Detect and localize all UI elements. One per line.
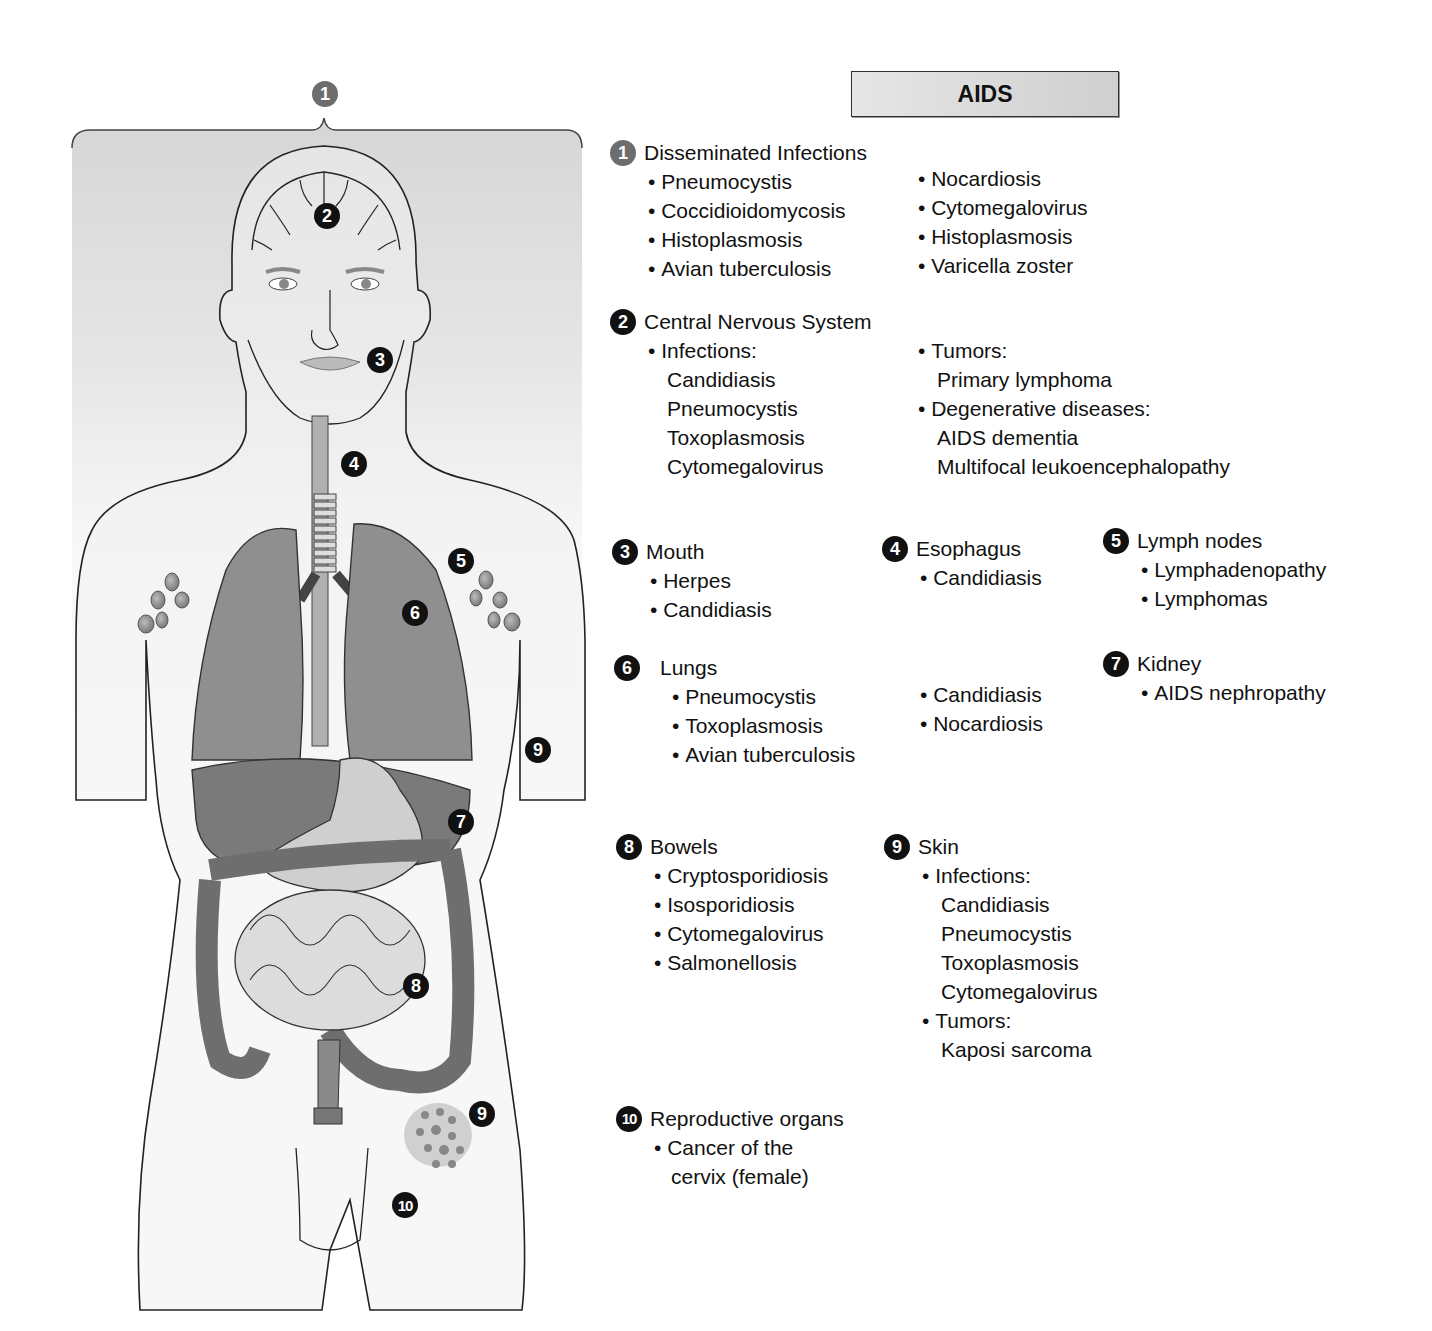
section-disseminated-infections: 1Disseminated Infections Pneumocystis Co… <box>610 138 867 167</box>
figure-marker-10: 10 <box>392 1192 418 1218</box>
list-item: Salmonellosis <box>654 948 828 977</box>
list-item: Cancer of the <box>654 1133 844 1162</box>
section-heading: Lymph nodes <box>1137 526 1262 555</box>
section-heading: Skin <box>918 832 959 861</box>
list-item: Candidiasis <box>650 595 772 624</box>
list-item: Pneumocystis <box>922 919 1097 948</box>
list-item: Lymphadenopathy <box>1141 555 1326 584</box>
section-heading: Central Nervous System <box>644 307 872 336</box>
list-item: Histoplasmosis <box>648 225 846 254</box>
list-item: Pneumocystis <box>672 682 855 711</box>
body-illustration: 1 2 3 4 5 6 9 7 8 9 10 <box>0 0 600 1331</box>
list-item: Candidiasis <box>920 563 1042 592</box>
section-heading: Reproductive organs <box>650 1104 844 1133</box>
list-item: Toxoplasmosis <box>922 948 1097 977</box>
list-item: Primary lymphoma <box>918 365 1230 394</box>
list-item: Histoplasmosis <box>918 222 1088 251</box>
list-subheading: Tumors: <box>918 336 1230 365</box>
list-subheading: Infections: <box>648 336 823 365</box>
list-subheading: Infections: <box>922 861 1097 890</box>
list-item: Toxoplasmosis <box>648 423 823 452</box>
anatomy-drawing <box>0 0 600 1331</box>
section-lymph-nodes: 5Lymph nodes Lymphadenopathy Lymphomas <box>1103 526 1326 613</box>
figure-marker-9-arm: 9 <box>525 737 551 763</box>
section-heading: Kidney <box>1137 649 1201 678</box>
figure-marker-2: 2 <box>314 203 340 229</box>
column-right: Candidiasis Nocardiosis <box>920 680 1043 738</box>
number-badge-4: 4 <box>882 536 908 562</box>
figure-marker-8: 8 <box>403 973 429 999</box>
list-item: AIDS nephropathy <box>1141 678 1326 707</box>
section-lungs: 6Lungs Pneumocystis Toxoplasmosis Avian … <box>614 653 717 682</box>
figure-marker-6: 6 <box>402 600 428 626</box>
section-esophagus: 4Esophagus Candidiasis <box>882 534 1042 592</box>
figure-marker-4: 4 <box>341 451 367 477</box>
list-item: Lymphomas <box>1141 584 1326 613</box>
column-right: Nocardiosis Cytomegalovirus Histoplasmos… <box>918 164 1088 280</box>
list-item: Avian tuberculosis <box>672 740 855 769</box>
number-badge-5: 5 <box>1103 528 1129 554</box>
number-badge-8: 8 <box>616 834 642 860</box>
figure-marker-9-hip: 9 <box>469 1101 495 1127</box>
number-badge-9: 9 <box>884 834 910 860</box>
list-item: Herpes <box>650 566 772 595</box>
number-badge-10: 10 <box>616 1106 642 1132</box>
list-item: Cryptosporidiosis <box>654 861 828 890</box>
number-badge-7: 7 <box>1103 651 1129 677</box>
section-heading: Mouth <box>646 537 704 566</box>
column-left: Pneumocystis Coccidioidomycosis Histopla… <box>648 167 846 283</box>
list-item: Cytomegalovirus <box>648 452 823 481</box>
number-badge-3: 3 <box>612 539 638 565</box>
list-item: Coccidioidomycosis <box>648 196 846 225</box>
list-item: Multifocal leukoencephalopathy <box>918 452 1230 481</box>
list-item: Toxoplasmosis <box>672 711 855 740</box>
list-item: Cytomegalovirus <box>918 193 1088 222</box>
list-item: Kaposi sarcoma <box>922 1035 1097 1064</box>
list-item: Avian tuberculosis <box>648 254 846 283</box>
list-item: AIDS dementia <box>918 423 1230 452</box>
list-item: Cytomegalovirus <box>654 919 828 948</box>
section-bowels: 8Bowels Cryptosporidiosis Isosporidiosis… <box>616 832 828 977</box>
list-subheading: Tumors: <box>922 1006 1097 1035</box>
list-item: Varicella zoster <box>918 251 1088 280</box>
list-item: Candidiasis <box>922 890 1097 919</box>
number-badge-6: 6 <box>614 655 640 681</box>
section-reproductive-organs: 10Reproductive organs Cancer of the cerv… <box>616 1104 844 1191</box>
list-item: Nocardiosis <box>920 709 1043 738</box>
list-item-continuation: cervix (female) <box>654 1162 844 1191</box>
column-right: Tumors: Primary lymphoma Degenerative di… <box>918 336 1230 481</box>
section-heading: Lungs <box>660 653 717 682</box>
list-item: Pneumocystis <box>648 167 846 196</box>
column-left: Pneumocystis Toxoplasmosis Avian tubercu… <box>672 682 855 769</box>
list-item: Isosporidiosis <box>654 890 828 919</box>
list-item: Nocardiosis <box>918 164 1088 193</box>
section-mouth: 3Mouth Herpes Candidiasis <box>612 537 772 624</box>
column-left: Infections: Candidiasis Pneumocystis Tox… <box>648 336 823 481</box>
section-heading: Bowels <box>650 832 718 861</box>
figure-marker-7: 7 <box>448 809 474 835</box>
section-kidney: 7Kidney AIDS nephropathy <box>1103 649 1326 707</box>
list-item: Candidiasis <box>648 365 823 394</box>
list-item: Candidiasis <box>920 680 1043 709</box>
list-item: Pneumocystis <box>648 394 823 423</box>
section-heading: Disseminated Infections <box>644 138 867 167</box>
section-skin: 9Skin Infections: Candidiasis Pneumocyst… <box>884 832 1097 1064</box>
section-central-nervous-system: 2Central Nervous System Infections: Cand… <box>610 307 872 336</box>
number-badge-1: 1 <box>610 140 636 166</box>
figure-marker-1: 1 <box>312 81 338 107</box>
number-badge-2: 2 <box>610 309 636 335</box>
list-subheading: Degenerative diseases: <box>918 394 1230 423</box>
diagram-title: AIDS <box>851 71 1119 117</box>
list-item: Cytomegalovirus <box>922 977 1097 1006</box>
figure-marker-3: 3 <box>367 347 393 373</box>
figure-marker-5: 5 <box>448 548 474 574</box>
section-heading: Esophagus <box>916 534 1021 563</box>
